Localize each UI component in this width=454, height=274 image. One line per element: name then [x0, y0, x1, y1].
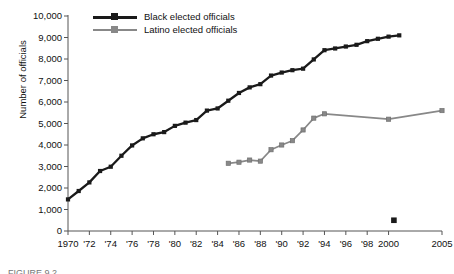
data-point-marker: [312, 57, 316, 61]
legend-item-black: Black elected officials: [93, 10, 237, 23]
data-point-marker: [290, 68, 294, 72]
data-point-marker: [141, 136, 145, 140]
data-point-marker: [280, 70, 284, 74]
data-point-marker: [205, 109, 209, 113]
data-point-marker: [87, 180, 91, 184]
series-line-black: [68, 35, 399, 199]
data-point-marker: [269, 73, 273, 77]
data-point-marker: [237, 91, 241, 95]
y-axis-tick-label: 6,000: [16, 97, 62, 107]
data-point-marker: [173, 124, 177, 128]
data-point-marker: [98, 169, 102, 173]
data-point-marker: [365, 39, 369, 43]
data-point-marker: [322, 112, 326, 116]
x-axis-tick-label: 2000: [369, 239, 409, 249]
legend-marker: [111, 13, 118, 20]
legend-label-black: Black elected officials: [144, 10, 235, 23]
data-point-marker: [258, 159, 262, 163]
legend-swatch-black: [93, 11, 137, 22]
figure-caption-sliver: FIGURE 9.2: [8, 269, 188, 274]
y-axis-tick-label: 3,000: [16, 162, 62, 172]
data-point-marker: [226, 99, 230, 103]
data-point-marker: [290, 139, 294, 143]
data-point-marker: [301, 128, 305, 132]
y-axis-tick-label: 1,000: [16, 205, 62, 215]
y-axis-tick-label: 0: [16, 226, 62, 236]
data-point-marker: [162, 130, 166, 134]
data-point-marker: [397, 33, 401, 37]
legend-swatch-latino: [93, 24, 137, 35]
y-axis-tick-label: 7,000: [16, 76, 62, 86]
data-point-marker: [109, 165, 113, 169]
data-point-marker: [440, 109, 444, 113]
y-axis-tick-label: 8,000: [16, 54, 62, 64]
data-point-marker: [226, 161, 230, 165]
x-axis-tick-label: 2005: [422, 239, 454, 249]
chart-plot-area: [0, 0, 454, 274]
data-point-marker: [194, 118, 198, 122]
stray-marker: [391, 217, 397, 223]
y-axis-tick-label: 10,000: [16, 11, 62, 21]
data-point-marker: [77, 189, 81, 193]
data-point-marker: [66, 197, 70, 201]
data-point-marker: [333, 46, 337, 50]
data-point-marker: [354, 43, 358, 47]
data-point-marker: [248, 158, 252, 162]
legend-item-latino: Latino elected officials: [93, 23, 237, 36]
data-point-marker: [258, 82, 262, 86]
data-point-marker: [183, 121, 187, 125]
legend-marker: [111, 26, 118, 33]
data-point-marker: [119, 154, 123, 158]
data-point-marker: [322, 48, 326, 52]
y-axis-tick-label: 4,000: [16, 140, 62, 150]
data-point-marker: [216, 106, 220, 110]
data-point-marker: [130, 143, 134, 147]
data-point-marker: [151, 132, 155, 136]
data-point-marker: [280, 143, 284, 147]
data-point-marker: [301, 67, 305, 71]
legend-label-latino: Latino elected officials: [144, 23, 237, 36]
series-line-latino: [228, 111, 442, 164]
data-point-marker: [376, 37, 380, 41]
data-point-marker: [344, 44, 348, 48]
data-point-marker: [386, 117, 390, 121]
y-axis-tick-label: 9,000: [16, 33, 62, 43]
data-point-marker: [386, 35, 390, 39]
chart-legend: Black elected officials Latino elected o…: [93, 10, 237, 36]
y-axis-tick-label: 5,000: [16, 119, 62, 129]
data-point-marker: [269, 148, 273, 152]
data-point-marker: [312, 116, 316, 120]
data-point-marker: [248, 85, 252, 89]
data-point-marker: [237, 160, 241, 164]
chart-container: Number of officials 01,0002,0003,0004,00…: [0, 0, 454, 274]
y-axis-tick-label: 2,000: [16, 183, 62, 193]
